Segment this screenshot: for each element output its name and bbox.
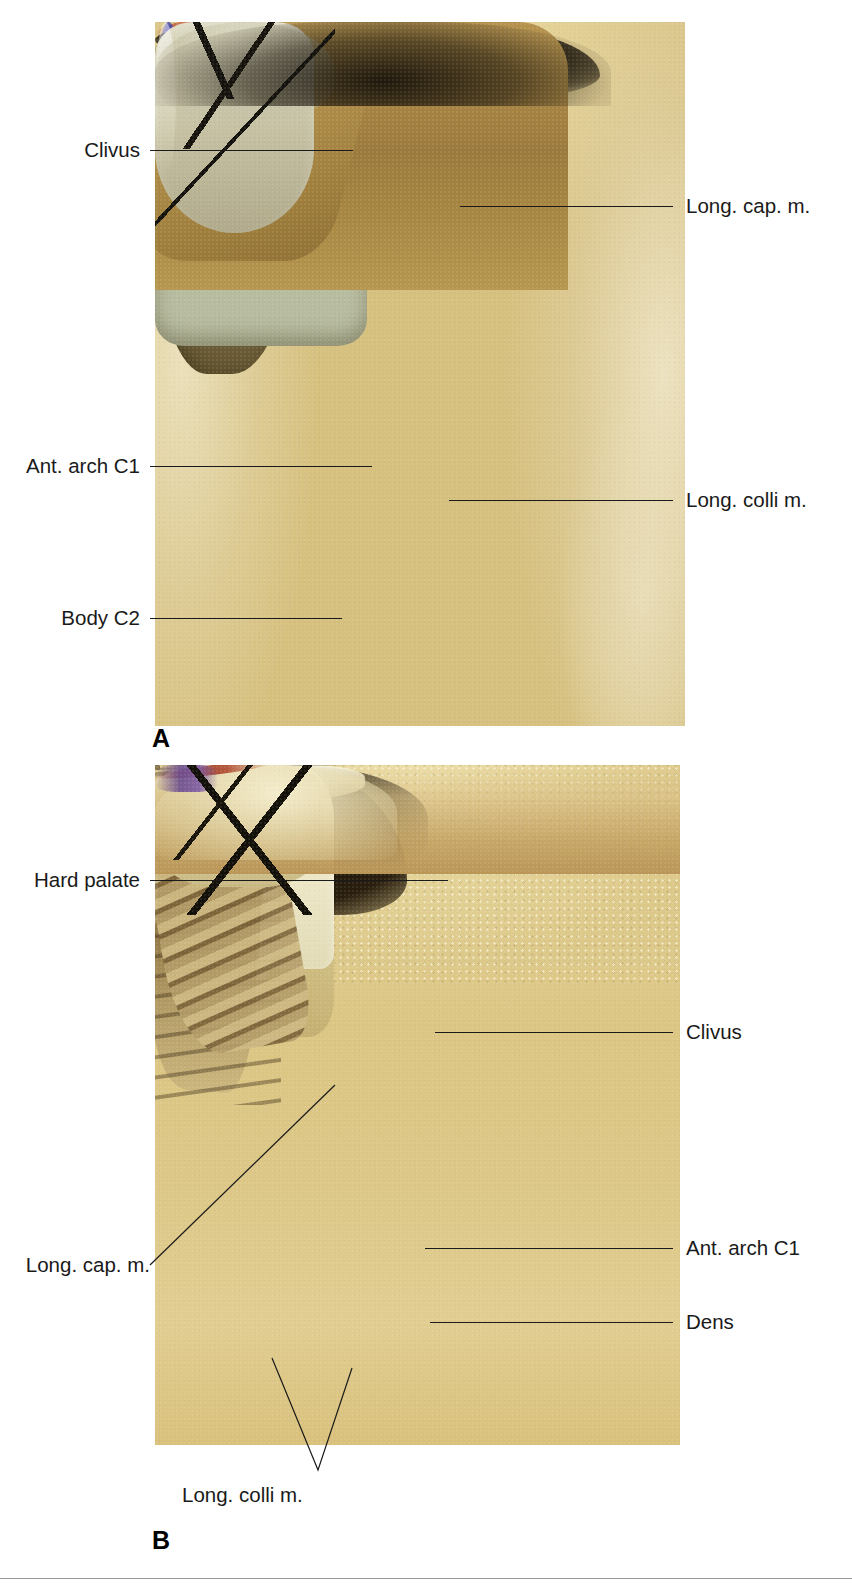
leader-line-b-ant-arch-c1 [425, 1248, 673, 1249]
leader-line-a-clivus [150, 150, 353, 151]
panel-letter-a: A [152, 726, 170, 751]
leader-line-a-long-cap [460, 206, 673, 207]
label-a-body-c2: Body C2 [0, 608, 140, 629]
panel-letter-b: B [152, 1528, 170, 1553]
leader-line-b-hard-palate [150, 880, 448, 881]
label-b-long-colli: Long. colli m. [182, 1485, 303, 1506]
label-b-ant-arch-c1: Ant. arch C1 [686, 1238, 800, 1259]
leader-line-a-ant-arch-c1 [150, 466, 372, 467]
label-a-ant-arch-c1: Ant. arch C1 [0, 456, 140, 477]
label-a-long-cap: Long. cap. m. [686, 196, 810, 217]
panel-a-film-grain [155, 22, 685, 726]
label-b-long-cap: Long. cap. m. [0, 1255, 150, 1276]
leader-line-b-dens [430, 1322, 673, 1323]
panel-b-photograph [155, 765, 680, 1445]
leader-line-a-body-c2 [150, 618, 342, 619]
label-b-clivus: Clivus [686, 1022, 742, 1043]
panel-a-photograph [155, 22, 685, 726]
anatomy-figure: Clivus Long. cap. m. Ant. arch C1 Long. … [0, 0, 852, 1587]
panel-b-film-grain [155, 765, 680, 1445]
figure-bottom-rule [0, 1578, 852, 1579]
label-a-long-colli: Long. colli m. [686, 490, 807, 511]
leader-line-a-long-colli [449, 500, 673, 501]
label-b-dens: Dens [686, 1312, 734, 1333]
label-b-hard-palate: Hard palate [0, 870, 140, 891]
label-a-clivus: Clivus [0, 140, 140, 161]
leader-line-b-clivus [435, 1032, 673, 1033]
